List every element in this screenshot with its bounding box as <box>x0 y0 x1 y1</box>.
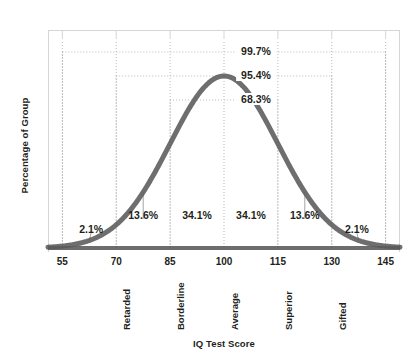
y-axis-title: Percentage of Group <box>19 56 30 236</box>
category-label-superior: Superior <box>283 291 294 330</box>
bracket-label-1sigma: 68.3% <box>236 93 276 105</box>
region-percentage-label: 13.6% <box>290 209 320 221</box>
x-tick-label-145: 145 <box>377 256 394 267</box>
region-percentage-label: 13.6% <box>128 209 158 221</box>
x-tick-label-115: 115 <box>270 256 286 267</box>
category-label-average: Average <box>229 293 240 330</box>
bracket-label-3sigma: 99.7% <box>236 45 276 57</box>
iq-bell-curve-chart: Percentage of Group 99.7%95.4%68.3% 2.1%… <box>0 0 416 358</box>
region-percentage-label: 2.1% <box>345 223 369 235</box>
x-tick-label-130: 130 <box>323 256 340 267</box>
category-label-retarded: Retarded <box>121 289 132 330</box>
x-tick-label-100: 100 <box>216 256 233 267</box>
region-percentage-label: 34.1% <box>182 209 212 221</box>
x-tick-label-55: 55 <box>57 256 68 267</box>
category-label-borderline: Borderline <box>175 282 186 330</box>
bracket-label-2sigma: 95.4% <box>236 69 276 81</box>
category-label-gifted: Gifted <box>337 303 348 330</box>
x-tick-label-85: 85 <box>165 256 176 267</box>
x-tick-label-70: 70 <box>111 256 122 267</box>
normal-distribution-curve <box>48 76 400 247</box>
plot-canvas <box>48 30 400 254</box>
vertical-gridlines <box>62 42 385 248</box>
region-percentage-label: 2.1% <box>79 223 103 235</box>
region-percentage-label: 34.1% <box>236 209 266 221</box>
x-axis-title: IQ Test Score <box>48 338 400 349</box>
x-axis-tick-marks <box>62 30 385 39</box>
